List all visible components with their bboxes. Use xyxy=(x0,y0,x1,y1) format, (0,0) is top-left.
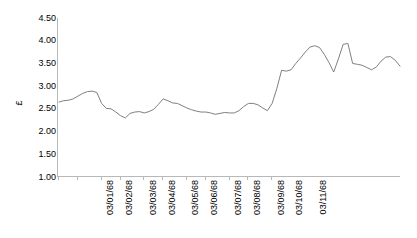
x-tick-mark xyxy=(143,177,144,180)
x-tick-mark xyxy=(247,177,248,180)
y-axis-tick-labels: 4.504.003.503.002.502.001.501.00 xyxy=(24,0,56,238)
plot-area xyxy=(57,18,400,177)
x-tick-label: 03/04/68 xyxy=(166,180,178,232)
x-tick-label: 03/11/68 xyxy=(317,180,329,232)
x-tick-mark xyxy=(271,177,272,180)
x-tick-mark xyxy=(120,177,121,180)
y-tick-label: 2.00 xyxy=(24,127,56,136)
series-line-path-container xyxy=(58,18,401,177)
x-tick-label: 03/06/68 xyxy=(208,180,220,232)
x-tick-mark xyxy=(162,177,163,180)
x-tick-mark xyxy=(77,177,78,180)
x-tick-mark xyxy=(186,177,187,180)
x-tick-label: 03/03/68 xyxy=(147,180,159,232)
x-tick-label: 03/10/68 xyxy=(293,180,305,232)
y-tick-label: 3.00 xyxy=(24,82,56,91)
x-tick-mark xyxy=(205,177,206,180)
x-tick-mark xyxy=(101,177,102,180)
x-axis-tick-labels: 03/01/6803/02/6803/03/6803/04/6803/05/68… xyxy=(57,177,400,238)
y-tick-label: 2.50 xyxy=(24,104,56,113)
y-tick-label: 3.50 xyxy=(24,59,56,68)
x-tick-label: 03/08/68 xyxy=(251,180,263,232)
series-line-path xyxy=(59,43,400,118)
x-tick-label: 03/01/68 xyxy=(104,180,116,232)
x-tick-label: 03/09/68 xyxy=(275,180,287,232)
x-tick-mark xyxy=(229,177,230,180)
y-tick-label: 4.00 xyxy=(24,36,56,45)
x-tick-label: 03/07/68 xyxy=(232,180,244,232)
line-chart: £ 4.504.003.503.002.502.001.501.00 03/01… xyxy=(0,0,417,238)
x-tick-mark xyxy=(58,177,59,180)
y-tick-label: 1.50 xyxy=(24,150,56,159)
x-tick-label: 03/02/68 xyxy=(123,180,135,232)
x-tick-label: 03/05/68 xyxy=(189,180,201,232)
y-tick-label: 4.50 xyxy=(24,14,56,23)
y-tick-label: 1.00 xyxy=(24,173,56,182)
